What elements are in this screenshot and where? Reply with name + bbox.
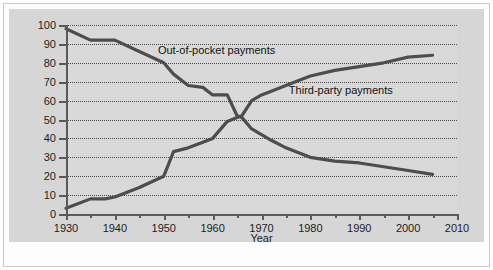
y-axis-tick-label: 10	[0, 190, 56, 201]
y-axis-tick-label: 60	[0, 96, 56, 107]
x-axis-tick-major	[359, 214, 361, 220]
y-axis-tick	[59, 157, 66, 159]
y-axis-tick-label: 90	[0, 39, 56, 50]
series-annotation-2: Third-party payments	[289, 85, 393, 96]
series-annotation-1: Out-of-pocket payments	[158, 45, 275, 56]
y-axis-tick-label: 80	[0, 58, 56, 69]
y-axis	[66, 25, 68, 214]
y-axis-tick	[59, 214, 66, 216]
y-axis-tick-label: 20	[0, 171, 56, 182]
x-axis-label: Year	[66, 232, 457, 244]
x-axis-tick-minor	[433, 214, 435, 218]
x-axis-tick-minor	[335, 214, 337, 218]
y-axis-tick	[59, 101, 66, 103]
y-axis-tick-label: 0	[0, 209, 56, 220]
x-axis-tick-major	[408, 214, 410, 220]
series-line-2	[66, 55, 433, 208]
y-axis-tick	[59, 138, 66, 140]
x-axis-tick-major	[310, 214, 312, 220]
y-axis-tick-label: 50	[0, 115, 56, 126]
x-axis-tick-minor	[286, 214, 288, 218]
y-axis-tick-label: 40	[0, 133, 56, 144]
x-axis-tick-minor	[139, 214, 141, 218]
y-axis-tick	[59, 195, 66, 197]
chart-figure: Percentage of Health Care Payments Out-o…	[0, 0, 493, 270]
x-axis-tick-minor	[384, 214, 386, 218]
y-axis-tick	[59, 120, 66, 122]
y-axis-tick-label: 100	[0, 20, 56, 31]
y-axis-tick	[59, 176, 66, 178]
y-axis-tick	[59, 25, 66, 27]
y-axis-tick-label: 30	[0, 152, 56, 163]
x-axis-tick-minor	[90, 214, 92, 218]
x-axis-tick-major	[66, 214, 68, 220]
x-axis-tick-major	[164, 214, 166, 220]
y-axis-tick	[59, 44, 66, 46]
y-axis-tick-label: 70	[0, 77, 56, 88]
x-axis-tick-major	[457, 214, 459, 220]
x-axis-tick-major	[115, 214, 117, 220]
x-axis-tick-major	[213, 214, 215, 220]
x-axis-tick-major	[262, 214, 264, 220]
y-axis-tick	[59, 63, 66, 65]
x-axis-tick-minor	[188, 214, 190, 218]
x-axis-tick-minor	[237, 214, 239, 218]
y-axis-tick	[59, 82, 66, 84]
plot-area: Out-of-pocket paymentsThird-party paymen…	[66, 25, 457, 214]
